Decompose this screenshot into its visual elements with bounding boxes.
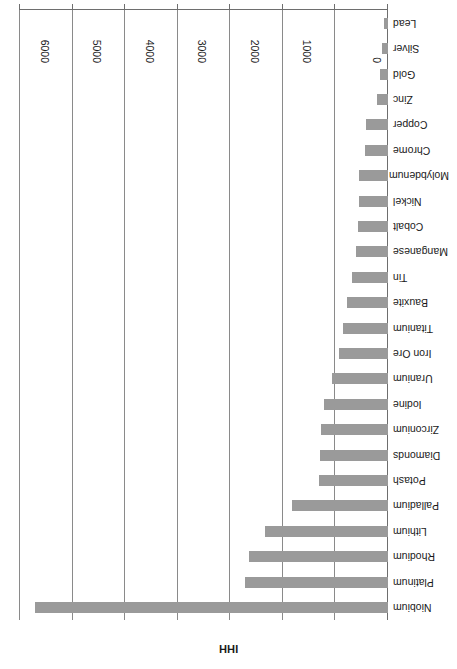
category-label: Chrome bbox=[393, 145, 449, 156]
category-label: Rhodium bbox=[393, 551, 449, 562]
bar bbox=[332, 373, 388, 384]
bar-row bbox=[0, 112, 457, 137]
bar bbox=[359, 170, 388, 181]
x-tick bbox=[387, 4, 388, 9]
bar-row bbox=[0, 36, 457, 61]
bar-row bbox=[0, 417, 457, 442]
category-label: Iodine bbox=[393, 399, 449, 410]
bar bbox=[343, 323, 388, 334]
bar-row bbox=[0, 137, 457, 162]
category-label: Zirconium bbox=[393, 424, 449, 435]
bar bbox=[320, 450, 388, 461]
category-label: Diamonds bbox=[393, 450, 449, 461]
x-tick bbox=[72, 4, 73, 9]
category-label: Niobium bbox=[393, 602, 449, 613]
category-label: Tin bbox=[393, 272, 449, 283]
bar-row bbox=[0, 264, 457, 289]
x-tick bbox=[177, 4, 178, 9]
category-label: Gold bbox=[393, 69, 449, 80]
bar bbox=[380, 69, 388, 80]
category-label: Silver bbox=[393, 43, 449, 54]
bar-row bbox=[0, 493, 457, 518]
bar bbox=[321, 424, 388, 435]
bar-row bbox=[0, 188, 457, 213]
bar-row bbox=[0, 518, 457, 543]
bar-row bbox=[0, 595, 457, 620]
bar-row bbox=[0, 315, 457, 340]
category-label: Bauxite bbox=[393, 297, 449, 308]
category-label: Nickel bbox=[393, 196, 449, 207]
bar bbox=[365, 145, 388, 156]
x-axis-title-wrap: IHH bbox=[0, 639, 457, 655]
bar-row bbox=[0, 442, 457, 467]
bar bbox=[324, 399, 388, 410]
bar bbox=[347, 297, 388, 308]
category-label: Cobalt bbox=[393, 221, 449, 232]
bar-row bbox=[0, 87, 457, 112]
category-label: Zinc bbox=[393, 94, 449, 105]
category-label: Titanium bbox=[393, 323, 449, 334]
bar bbox=[366, 119, 388, 130]
category-label: Potash bbox=[393, 475, 449, 486]
category-label: Manganese bbox=[393, 246, 449, 257]
category-label: Molybdenum bbox=[393, 170, 449, 181]
bar bbox=[245, 577, 388, 588]
x-axis-title: IHH bbox=[0, 643, 457, 655]
bar bbox=[384, 18, 388, 29]
bar-row bbox=[0, 468, 457, 493]
bar-row bbox=[0, 10, 457, 35]
x-tick bbox=[229, 4, 230, 9]
category-label: Lead bbox=[393, 18, 449, 29]
category-label: Uranium bbox=[393, 373, 449, 384]
bar bbox=[339, 348, 388, 359]
x-tick bbox=[282, 4, 283, 9]
bar bbox=[35, 602, 388, 613]
bar-row bbox=[0, 290, 457, 315]
bar-row bbox=[0, 544, 457, 569]
bar bbox=[359, 196, 388, 207]
category-label: Copper bbox=[393, 119, 449, 130]
bar bbox=[382, 43, 388, 54]
category-label: Iron Ore bbox=[393, 348, 449, 359]
bar-row bbox=[0, 569, 457, 594]
bar-row bbox=[0, 214, 457, 239]
category-label: Lithium bbox=[393, 526, 449, 537]
bar bbox=[377, 94, 388, 105]
x-tick bbox=[124, 4, 125, 9]
bar bbox=[265, 526, 388, 537]
category-label: Platinum bbox=[393, 577, 449, 588]
bar bbox=[356, 246, 388, 257]
bar bbox=[358, 221, 388, 232]
bar bbox=[292, 500, 388, 511]
bar-row bbox=[0, 341, 457, 366]
x-tick bbox=[334, 4, 335, 9]
bar bbox=[249, 551, 388, 562]
bar-chart-figure: 01000200030004000500060007000 NiobiumPla… bbox=[0, 0, 457, 669]
bar bbox=[319, 475, 388, 486]
bar-row bbox=[0, 391, 457, 416]
bar-row bbox=[0, 366, 457, 391]
x-tick bbox=[19, 4, 20, 9]
bar-row bbox=[0, 61, 457, 86]
category-label: Palladium bbox=[393, 500, 449, 511]
bar bbox=[352, 272, 388, 283]
bar-row bbox=[0, 239, 457, 264]
